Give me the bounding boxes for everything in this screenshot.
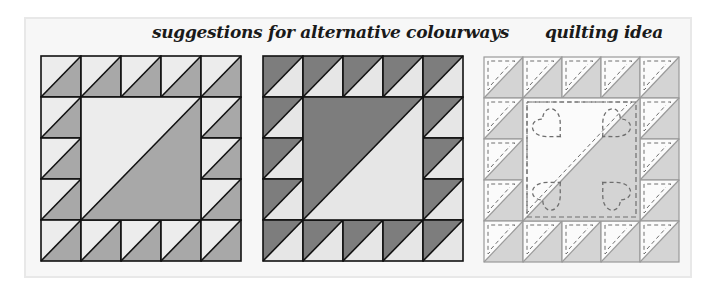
border-unit-r1-c3	[343, 56, 383, 97]
border-unit-r1-c3	[121, 56, 161, 97]
border-unit-r5-c2	[81, 220, 121, 261]
border-unit-r5-c4	[383, 220, 423, 261]
border-unit-r3-c1	[263, 138, 303, 179]
border-unit-r1-c3	[562, 57, 601, 98]
center-square	[523, 98, 640, 221]
border-unit-r5-c1	[484, 221, 523, 262]
border-unit-r1-c1	[263, 56, 303, 97]
border-unit-r2-c1	[41, 97, 81, 138]
border-unit-r5-c3	[121, 220, 161, 261]
border-unit-r1-c4	[383, 56, 423, 97]
border-unit-r1-c2	[523, 57, 562, 98]
border-unit-r4-c5	[423, 179, 463, 220]
border-unit-r1-c1	[484, 57, 523, 98]
border-unit-r3-c5	[201, 138, 241, 179]
border-unit-r1-c4	[161, 56, 201, 97]
border-unit-r2-c5	[201, 97, 241, 138]
border-unit-r5-c3	[562, 221, 601, 262]
quilt-block-quilting-idea	[484, 57, 679, 262]
border-unit-r3-c5	[640, 139, 679, 180]
border-unit-r1-c5	[640, 57, 679, 98]
border-unit-r1-c2	[81, 56, 121, 97]
center-square	[81, 97, 201, 220]
quilt-block-colourway-2	[263, 56, 463, 261]
border-unit-r5-c5	[201, 220, 241, 261]
border-unit-r1-c5	[423, 56, 463, 97]
alternative-colourways-heading: suggestions for alternative colourways	[152, 22, 509, 42]
border-unit-r3-c1	[484, 139, 523, 180]
border-unit-r5-c2	[303, 220, 343, 261]
border-unit-r4-c5	[640, 180, 679, 221]
border-unit-r5-c5	[640, 221, 679, 262]
border-unit-r5-c5	[423, 220, 463, 261]
quilting-idea-heading: quilting idea	[545, 22, 663, 42]
border-unit-r4-c5	[201, 179, 241, 220]
border-unit-r2-c1	[484, 98, 523, 139]
center-square	[303, 97, 423, 220]
border-unit-r4-c1	[263, 179, 303, 220]
border-unit-r1-c2	[303, 56, 343, 97]
border-unit-r3-c5	[423, 138, 463, 179]
border-unit-r5-c1	[41, 220, 81, 261]
border-unit-r4-c1	[484, 180, 523, 221]
border-unit-r5-c4	[161, 220, 201, 261]
border-unit-r1-c1	[41, 56, 81, 97]
border-unit-r5-c4	[601, 221, 640, 262]
border-unit-r5-c1	[263, 220, 303, 261]
border-unit-r2-c1	[263, 97, 303, 138]
border-unit-r5-c3	[343, 220, 383, 261]
border-unit-r4-c1	[41, 179, 81, 220]
border-unit-r5-c2	[523, 221, 562, 262]
border-unit-r3-c1	[41, 138, 81, 179]
border-unit-r1-c5	[201, 56, 241, 97]
quilt-block-colourway-1	[41, 56, 241, 261]
border-unit-r2-c5	[423, 97, 463, 138]
border-unit-r2-c5	[640, 98, 679, 139]
border-unit-r1-c4	[601, 57, 640, 98]
